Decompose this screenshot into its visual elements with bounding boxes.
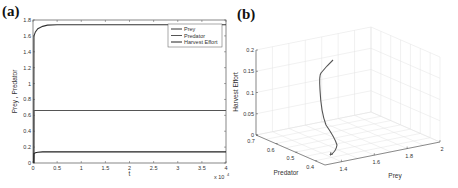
predator-tick-label: 0.5 bbox=[287, 155, 295, 161]
prey-tick-label: 2 bbox=[440, 146, 443, 152]
prey-tick-label: 1.4 bbox=[340, 166, 348, 172]
predator-axis-label: Predator bbox=[274, 169, 300, 176]
harvest-tick-label: 0.15 bbox=[243, 68, 254, 74]
prey-tick-label: 1.6 bbox=[372, 159, 380, 165]
predator-tick-label: 0.7 bbox=[247, 138, 255, 144]
predator-tick-label: 0.4 bbox=[306, 164, 314, 170]
prey-axis bbox=[325, 142, 440, 165]
harvest-axis-label: Harvest Effort bbox=[232, 72, 239, 112]
harvest-tick-label: 0.2 bbox=[246, 47, 254, 53]
harvest-tick-label: 0.05 bbox=[243, 111, 254, 117]
predator-tick-label: 0.6 bbox=[267, 147, 275, 153]
harvest-tick-label: 0.1 bbox=[246, 90, 254, 96]
chart-b: 1.41.61.820.40.50.60.700.050.10.150.2Pre… bbox=[0, 0, 458, 188]
prey-tick-label: 1.8 bbox=[405, 153, 413, 159]
prey-axis-label: Prey bbox=[388, 172, 402, 180]
harvest-tick-label: 0 bbox=[251, 132, 254, 138]
